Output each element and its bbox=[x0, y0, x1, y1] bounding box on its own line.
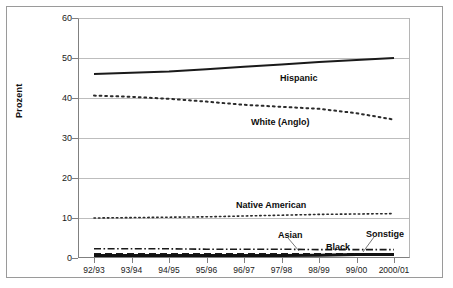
x-tick-mark-8 bbox=[394, 258, 395, 263]
plot-area bbox=[78, 18, 410, 258]
y-tick-label-0: 0 bbox=[44, 254, 72, 263]
gridline-20 bbox=[79, 178, 409, 179]
x-tick-label-8: 2000/01 bbox=[369, 265, 419, 275]
series-label-sonstige: Sonstige bbox=[366, 229, 404, 239]
gridline-60 bbox=[79, 18, 409, 19]
series-label-black: Black bbox=[326, 242, 350, 252]
x-tick-mark-5 bbox=[282, 258, 283, 263]
gridline-10 bbox=[79, 218, 409, 219]
gridline-30 bbox=[79, 138, 409, 139]
x-tick-mark-7 bbox=[357, 258, 358, 263]
x-tick-mark-4 bbox=[244, 258, 245, 263]
y-tick-label-40: 40 bbox=[44, 94, 72, 103]
gridline-50 bbox=[79, 58, 409, 59]
x-tick-mark-2 bbox=[169, 258, 170, 263]
y-axis-title: Prozent bbox=[14, 84, 24, 118]
y-tick-label-20: 20 bbox=[44, 174, 72, 183]
series-label-native-american: Native American bbox=[236, 200, 306, 210]
series-label-white-anglo: White (Anglo) bbox=[251, 117, 309, 127]
gridline-40 bbox=[79, 98, 409, 99]
x-tick-mark-1 bbox=[132, 258, 133, 263]
y-tick-mark-0 bbox=[72, 258, 78, 259]
y-tick-label-50: 50 bbox=[44, 54, 72, 63]
chart-figure: Prozent 010203040506092/9393/9494/9595/9… bbox=[0, 0, 453, 288]
series-label-hispanic: Hispanic bbox=[280, 73, 318, 83]
series-label-asian: Asian bbox=[278, 230, 303, 240]
x-tick-mark-0 bbox=[94, 258, 95, 263]
y-tick-label-60: 60 bbox=[44, 14, 72, 23]
x-tick-mark-6 bbox=[319, 258, 320, 263]
y-tick-label-10: 10 bbox=[44, 214, 72, 223]
x-tick-mark-3 bbox=[207, 258, 208, 263]
y-tick-label-30: 30 bbox=[44, 134, 72, 143]
